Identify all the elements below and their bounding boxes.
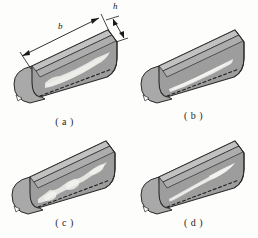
caption-d: ( d )	[129, 217, 258, 228]
dim-h-arrow-bottom-a	[119, 31, 124, 38]
specimen-drawing-a	[0, 0, 129, 119]
dim-h-arrow-top-a	[113, 19, 118, 26]
caption-b: ( b )	[129, 110, 258, 121]
dim-h-ext-top-a	[106, 16, 119, 20]
figure-root: b h ( a ) ( b ) ( c ) ( d )	[0, 0, 258, 238]
dim-b-arrow-right-a	[91, 18, 99, 24]
panel-b	[129, 0, 258, 119]
dim-b-ext-right-a	[101, 14, 109, 31]
dim-b-arrow-left-a	[22, 50, 30, 56]
dimension-label-b: b	[58, 21, 63, 31]
dimension-label-h: h	[113, 1, 118, 11]
caption-a: ( a )	[0, 116, 129, 127]
caption-c: ( c )	[0, 217, 129, 228]
panel-a	[0, 0, 129, 119]
specimen-drawing-b	[129, 0, 258, 119]
dim-h-ext-bottom-a	[116, 38, 128, 42]
